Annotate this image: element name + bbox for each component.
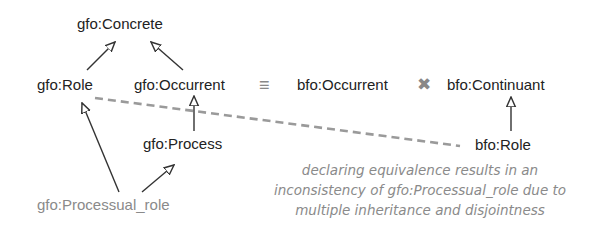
node-bfo-occurrent: bfo:Occurrent <box>297 76 388 94</box>
equivalence-icon: ≡ <box>259 76 270 94</box>
edge-processualrole-role <box>82 103 119 192</box>
node-gfo-process: gfo:Process <box>143 135 222 153</box>
node-gfo-occurrent: gfo:Occurrent <box>134 76 225 94</box>
node-gfo-role: gfo:Role <box>37 76 93 94</box>
node-gfo-processual-role: gfo:Processual_role <box>37 196 170 214</box>
note-line-1: declaring equivalence results in an <box>226 160 614 180</box>
node-gfo-concrete: gfo:Concrete <box>77 15 163 33</box>
disjoint-x-icon: ✖ <box>417 76 431 94</box>
node-bfo-role: bfo:Role <box>475 136 531 154</box>
edge-occurrent-concrete <box>151 42 183 70</box>
node-bfo-continuant: bfo:Continuant <box>447 76 545 94</box>
note-line-2: inconsistency of gfo:Processual_role due… <box>226 180 614 200</box>
note-line-3: multiple inheritance and disjointness <box>226 200 614 220</box>
edge-role-concrete <box>87 42 115 70</box>
inconsistency-note: declaring equivalence results in an inco… <box>226 160 614 220</box>
edge-processualrole-process <box>142 165 174 192</box>
